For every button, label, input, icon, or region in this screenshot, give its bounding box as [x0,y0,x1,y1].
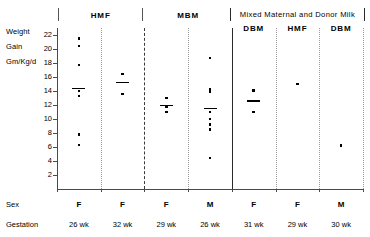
column-separator [319,28,320,189]
sex-cell: M [338,200,345,209]
data-point [121,73,124,76]
y-axis-tick [53,49,57,50]
gestation-cell: 31 wk [244,220,264,229]
x-axis-tick [276,189,277,192]
data-point [78,144,81,147]
data-point [209,123,212,126]
y-axis-tick [53,119,57,120]
column-separator [188,28,189,189]
data-point [252,111,255,114]
y-axis-tick-label: 2 [30,171,52,179]
mean-line [204,108,217,109]
x-axis-tick [57,189,58,192]
x-axis-tick [319,189,320,192]
data-point [121,93,124,96]
data-point [209,90,212,93]
y-axis-tick [53,105,57,106]
mean-line [247,100,260,101]
y-axis-tick-label: 16 [30,73,52,81]
sex-cell: F [120,200,125,209]
gestation-cell: 32 wk [113,220,133,229]
data-point [296,83,299,86]
x-axis-tick [232,189,233,192]
y-axis-tick [53,133,57,134]
gestation-cell: 30 wk [331,220,351,229]
sex-cell: F [251,200,256,209]
data-point [78,133,81,136]
y-axis-tick-label: 6 [30,143,52,151]
data-point [209,118,212,121]
y-axis-tick-label: 10 [30,115,52,123]
column-separator [144,28,145,189]
y-axis-tick [53,77,57,78]
column-separator [232,28,233,189]
gestation-cell: 26 wk [69,220,89,229]
data-point [340,144,343,147]
y-axis-tick-label: 12 [30,101,52,109]
y-axis-caption-line-1: Weight [6,27,30,36]
y-axis-tick-label: 20 [30,45,52,53]
group-subheader-hmf-1: HMF [287,24,307,33]
header-bracket-rule [364,8,365,21]
mean-line [116,82,129,83]
column-separator [276,28,277,189]
group-header-hmf: HMF [91,11,111,20]
sex-cell: F [164,200,169,209]
column-separator [101,28,102,189]
data-point [78,90,81,93]
x-axis-tick [188,189,189,192]
data-point [209,57,212,60]
data-point [78,45,81,48]
mean-line [72,88,85,89]
group-header-mbm: MBM [177,11,199,20]
gestation-cell: 26 wk [200,220,220,229]
x-axis-tick [363,189,364,192]
x-axis-tick [101,189,102,192]
sex-cell: M [207,200,214,209]
data-point [78,64,81,67]
plot-area: 246810121416182022 [57,28,363,189]
gestation-cell: 29 wk [288,220,308,229]
sex-cell: F [76,200,81,209]
x-axis-tick [144,189,145,192]
mean-line [160,105,173,106]
column-separator [363,28,364,189]
group-subheader-dbm-0: DBM [243,24,264,33]
sex-cell: F [295,200,300,209]
header-bracket-rule [230,8,231,21]
y-axis-tick [53,147,57,148]
group-header-mixed: Mixed Maternal and Donor Milk [240,10,355,19]
y-axis-tick [53,175,57,176]
y-axis-tick [53,91,57,92]
data-point [252,89,255,92]
weight-gain-scatter-figure: Weight Gain Gm/Kg/d Mixed Maternal and D… [0,0,370,237]
sex-row-label: Sex [6,200,19,209]
header-divider-rule [142,8,143,21]
data-point [78,37,81,40]
group-subheader-dbm-2: DBM [331,24,352,33]
data-point [165,111,168,114]
y-axis-tick-label: 4 [30,157,52,165]
gestation-cell: 29 wk [156,220,176,229]
y-axis-tick [53,63,57,64]
gestation-row-label: Gestation [6,220,38,229]
y-axis-tick-label: 18 [30,59,52,67]
y-axis-tick [53,35,57,36]
y-axis-tick-label: 22 [30,31,52,39]
data-point [209,157,212,160]
y-axis-tick-label: 14 [30,87,52,95]
data-point [78,95,81,98]
data-point [209,128,212,131]
data-point [165,97,168,100]
y-axis-caption-line-2: Gain [6,42,22,51]
data-point [209,111,212,114]
y-axis-tick-label: 8 [30,129,52,137]
header-divider-rule [58,8,59,21]
y-axis-tick [53,161,57,162]
